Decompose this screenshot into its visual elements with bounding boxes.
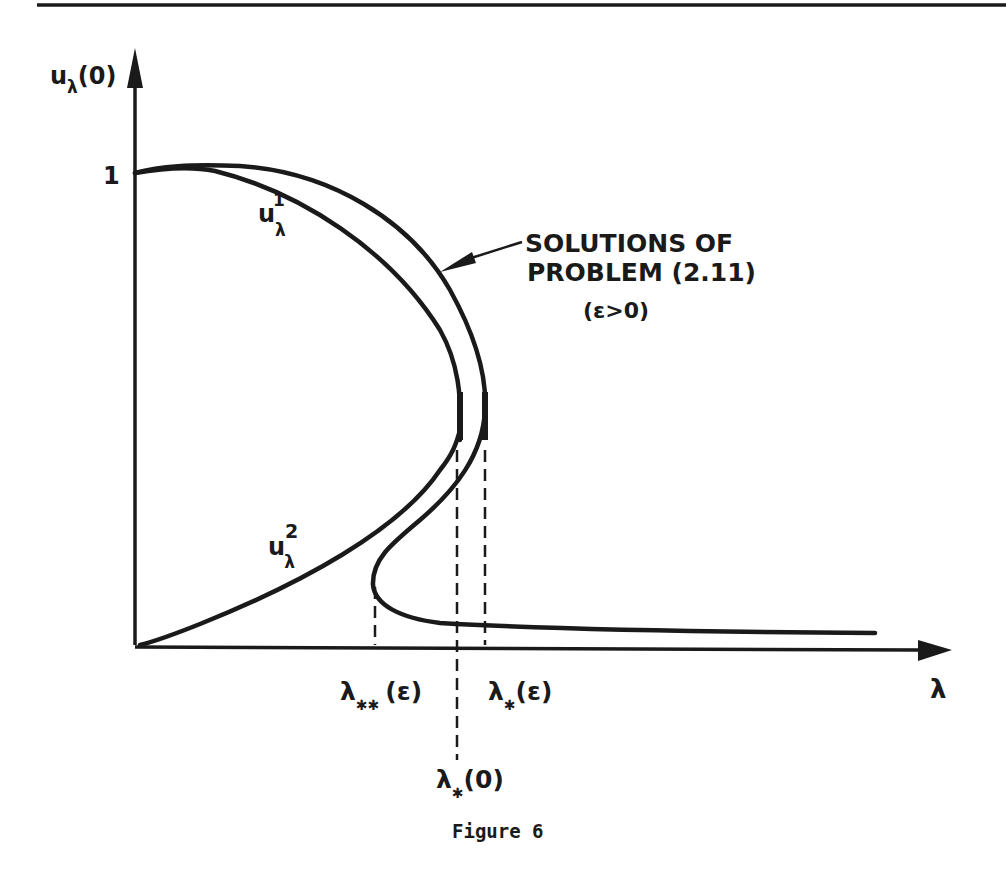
y-axis-arrow-icon	[127, 48, 143, 88]
curve-solutions-eps	[135, 165, 875, 633]
figure-caption: Figure 6	[452, 820, 544, 842]
label-lambda-starstar-eps: λ✱✱(ε)	[340, 677, 422, 713]
x-axis-label: λ	[930, 674, 946, 704]
annotation-line1: SOLUTIONS OF	[525, 229, 733, 258]
curve-u1	[135, 168, 460, 440]
x-axis	[135, 640, 952, 661]
label-u2: u2λ	[268, 520, 298, 572]
figure-6-diagram: uλ(0) 1 u1λ u2λ SOLUTIONS OF PROBLEM (2.…	[0, 0, 1006, 883]
label-u1: u1λ	[258, 190, 286, 240]
annotation-pointer	[440, 242, 522, 272]
annotation-line2: PROBLEM (2.11)	[527, 258, 756, 287]
y-axis-label: uλ(0)	[50, 62, 117, 97]
label-lambda-star-0: λ✱(0)	[436, 765, 504, 801]
y-axis	[127, 48, 143, 645]
annotation-line3: (ε>0)	[583, 298, 649, 323]
x-axis-arrow-icon	[918, 640, 952, 661]
label-lambda-star-eps: λ✱(ε)	[488, 677, 552, 713]
y-tick-1: 1	[103, 162, 120, 190]
pointer-arrow-icon	[440, 252, 476, 272]
curve-u2	[140, 430, 460, 645]
